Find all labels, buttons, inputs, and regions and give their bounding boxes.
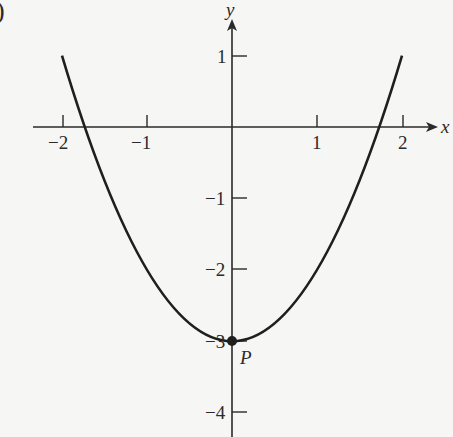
point-p-marker (227, 336, 237, 346)
y-axis-label: y (226, 0, 234, 19)
y-tick-label: −3 (205, 332, 225, 351)
point-p-label: P (240, 348, 252, 367)
x-tick-label: 1 (312, 133, 322, 152)
x-tick-label: 2 (398, 133, 408, 152)
x-axis-label: x (441, 117, 449, 136)
x-ticks (63, 115, 403, 127)
x-tick-label: −1 (131, 133, 151, 152)
y-tick-label: −4 (205, 403, 225, 422)
y-tick-label: −2 (205, 260, 225, 279)
parabola-plot (0, 0, 453, 437)
y-tick-label: 1 (217, 47, 227, 66)
x-tick-label: −2 (48, 133, 68, 152)
y-tick-label: −1 (205, 189, 225, 208)
